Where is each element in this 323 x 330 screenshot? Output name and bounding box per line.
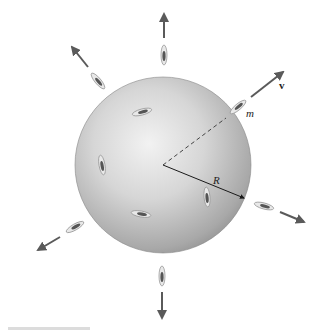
sphere-diagram: R v m	[0, 0, 323, 330]
escaping-particle-right	[254, 201, 275, 212]
escaping-particle-m	[228, 98, 247, 115]
mass-label: m	[246, 107, 254, 119]
velocity-arrow-right	[280, 212, 304, 222]
escaping-particle-lower-left	[65, 219, 85, 234]
velocity-arrow-lower-left	[38, 237, 60, 250]
velocity-arrow-upper-left	[72, 47, 88, 67]
escaping-particle-upper-left	[89, 71, 106, 90]
escaping-particle-top	[161, 45, 167, 65]
velocity-label: v	[279, 79, 285, 91]
escaping-particle-bottom	[159, 266, 165, 286]
radius-label: R	[212, 174, 220, 186]
